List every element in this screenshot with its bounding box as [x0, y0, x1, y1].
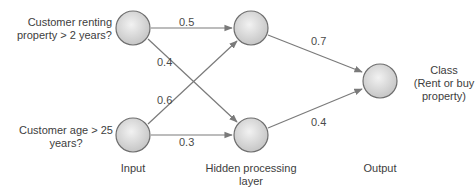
edge-in1-h2 [148, 39, 237, 122]
input-1-label-line1: Customer renting [0, 16, 112, 29]
weight-in1-h1: 0.5 [179, 16, 194, 28]
output-class-label: Class (Rent or buy property) [412, 64, 476, 103]
input-2-label-line1: Customer age > 25 [16, 124, 116, 137]
output-node [363, 64, 397, 98]
input-1-label: Customer renting property > 2 years? [0, 16, 112, 42]
input-1-label-line2: property > 2 years? [0, 29, 112, 42]
input-2-label: Customer age > 25 years? [16, 124, 116, 150]
layer-label-hidden-line2: layer [196, 175, 306, 188]
layer-label-input: Input [113, 162, 153, 175]
weight-h1-out: 0.7 [311, 35, 326, 47]
weight-h2-out: 0.4 [311, 116, 326, 128]
layer-label-hidden: Hidden processing layer [196, 162, 306, 188]
layer-label-output: Output [358, 162, 402, 175]
layer-label-hidden-line1: Hidden processing [196, 162, 306, 175]
output-label-line1: Class [412, 64, 476, 77]
weight-in2-h2: 0.3 [179, 136, 194, 148]
hidden-node-1 [234, 11, 268, 45]
weight-in1-h2: 0.4 [157, 56, 172, 68]
input-2-label-line2: years? [16, 137, 116, 150]
output-label-line3: property) [412, 90, 476, 103]
input-node-1 [116, 11, 150, 45]
output-label-line2: (Rent or buy [412, 77, 476, 90]
edge-in2-h1 [148, 41, 237, 124]
weight-in2-h1: 0.6 [157, 94, 172, 106]
input-node-2 [116, 118, 150, 152]
hidden-node-2 [234, 118, 268, 152]
